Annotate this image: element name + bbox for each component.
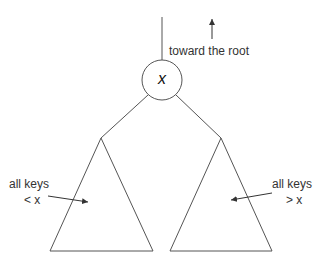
bst-diagram bbox=[0, 0, 325, 262]
arrow-right-icon bbox=[48, 196, 88, 202]
root-direction-label: toward the root bbox=[169, 44, 249, 58]
right-subtree-triangle bbox=[170, 138, 272, 251]
arrow-left-icon bbox=[231, 193, 272, 200]
node-label: x bbox=[142, 70, 182, 88]
left-subtree-label-line2: < x bbox=[24, 193, 40, 207]
right-subtree-label-line2: > x bbox=[286, 193, 302, 207]
left-subtree-label-line1: all keys bbox=[9, 177, 49, 191]
left-subtree-triangle bbox=[50, 138, 153, 251]
right-subtree-label-line1: all keys bbox=[272, 177, 312, 191]
right-edge bbox=[176, 95, 221, 138]
left-edge bbox=[101, 95, 148, 138]
